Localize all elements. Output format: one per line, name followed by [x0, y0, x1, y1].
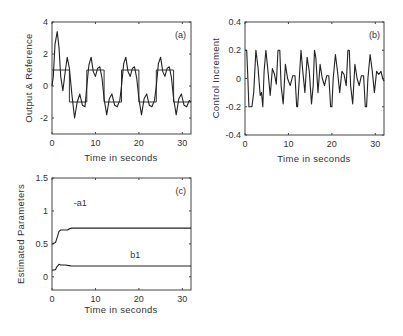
annotations-c: -a1b1 [74, 198, 140, 261]
x-tick-label: 0 [49, 138, 54, 148]
y-axis-label-c: Estimated Parameters [15, 184, 26, 284]
annotation-label: -a1 [74, 198, 87, 208]
series-control-increment [245, 50, 384, 107]
x-tick-label: 30 [177, 294, 187, 304]
annotation-label: b1 [130, 250, 140, 260]
y-tick-label: 0.4 [228, 17, 241, 27]
x-tick-label: 10 [283, 139, 293, 149]
series-b [245, 50, 384, 107]
y-tick-label: 0 [43, 272, 48, 282]
x-tick-label: 10 [90, 294, 100, 304]
series-b1 [52, 264, 191, 270]
y-tick-label: 4 [43, 17, 48, 27]
y-tick-label: -0.2 [225, 102, 241, 112]
x-tick-label: 10 [90, 138, 100, 148]
x-tick-label: 30 [370, 139, 380, 149]
chart-c: 00.511.5 0102030 -a1b1 (c) Time in secon… [15, 173, 191, 315]
x-axis-label-a: Time in seconds [84, 152, 157, 163]
x-ticks-a: 0102030 [49, 22, 187, 148]
chart-b: -0.4-0.200.20.4 0102030 (b) Time in seco… [210, 17, 384, 164]
x-axis-label-b: Time in seconds [277, 153, 350, 164]
plot-frame-c [52, 178, 191, 290]
x-tick-label: 0 [242, 139, 247, 149]
y-tick-label: 1 [43, 206, 48, 216]
figure: -2024 0102030 (a) Time in seconds Output… [0, 0, 403, 336]
panel-label-b: (b) [369, 30, 380, 40]
panel-label-c: (c) [176, 186, 187, 196]
y-tick-label: 0 [236, 74, 241, 84]
y-tick-label: 1.5 [35, 173, 48, 183]
plot-frame-b [245, 22, 384, 135]
series--a1 [52, 228, 191, 244]
y-axis-label-b: Control Increment [210, 38, 221, 119]
x-tick-label: 30 [177, 138, 187, 148]
x-tick-label: 20 [134, 294, 144, 304]
y-tick-label: 0.2 [228, 45, 241, 55]
x-axis-label-c: Time in seconds [84, 304, 157, 315]
x-tick-label: 0 [49, 294, 54, 304]
y-tick-label: 2 [43, 49, 48, 59]
chart-a: -2024 0102030 (a) Time in seconds Output… [23, 17, 191, 163]
y-tick-label: -0.4 [225, 130, 241, 140]
y-tick-label: -2 [40, 113, 48, 123]
series-a [52, 32, 191, 118]
series-c [52, 228, 191, 270]
y-tick-label: 0.5 [35, 239, 48, 249]
y-axis-label-a: Output & Reference [23, 33, 34, 122]
x-tick-label: 20 [134, 138, 144, 148]
y-tick-label: 0 [43, 81, 48, 91]
panel-label-a: (a) [175, 30, 186, 40]
x-ticks-c: 0102030 [49, 178, 187, 304]
x-tick-label: 20 [327, 139, 337, 149]
